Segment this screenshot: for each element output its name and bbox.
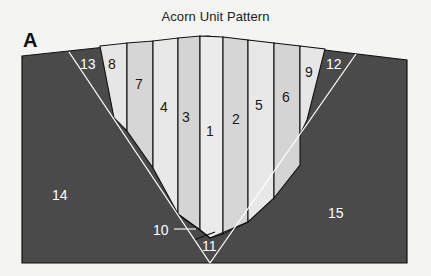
label-10: 10: [153, 222, 169, 238]
piece-2: [223, 37, 248, 234]
label-3: 3: [182, 109, 190, 125]
label-8: 8: [108, 56, 116, 72]
label-5: 5: [255, 97, 263, 113]
label-13: 13: [80, 56, 96, 72]
label-1: 1: [206, 123, 214, 139]
acorn-pattern-diagram: 13 8 7 4 3 1 2 5 6 9 12 14 15 10 11: [0, 0, 431, 276]
label-9: 9: [305, 64, 313, 80]
label-6: 6: [282, 89, 290, 105]
piece-5: [248, 40, 274, 222]
label-11: 11: [202, 238, 217, 254]
label-2: 2: [232, 111, 240, 127]
label-4: 4: [160, 99, 168, 115]
label-12: 12: [326, 56, 342, 72]
label-7: 7: [135, 76, 143, 92]
label-14: 14: [52, 187, 68, 203]
label-15: 15: [328, 205, 344, 221]
piece-3: [178, 36, 200, 230]
